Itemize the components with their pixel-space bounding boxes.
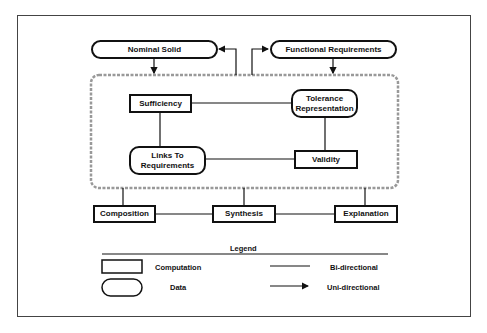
node-synthesis: Synthesis [212, 205, 276, 223]
legend-computation-label: Computation [155, 263, 201, 272]
node-tolerance-representation: Tolerance Representation [291, 89, 358, 118]
node-validity: Validity [294, 150, 358, 169]
legend-computation-swatch [102, 260, 142, 273]
node-functional-requirements: Functional Requirements [270, 40, 397, 59]
node-nominal-solid: Nominal Solid [91, 40, 218, 59]
node-label: Validity [312, 155, 340, 165]
node-label: Explanation [343, 209, 388, 219]
node-composition: Composition [93, 205, 156, 223]
node-sufficiency: Sufficiency [129, 94, 192, 113]
node-explanation: Explanation [334, 205, 398, 223]
legend-bidirectional-label: Bi-directional [330, 263, 378, 272]
node-label: Functional Requirements [285, 45, 381, 55]
node-label: Sufficiency [139, 99, 182, 109]
node-label: Synthesis [225, 209, 263, 219]
node-links-to-requirements: Links To Requirements [129, 146, 206, 175]
node-label: Links To Requirements [137, 151, 198, 171]
legend-data-swatch [102, 279, 142, 296]
connector-layer [0, 0, 487, 333]
node-label: Nominal Solid [128, 45, 181, 55]
node-label: Tolerance Representation [295, 94, 353, 114]
legend-data-label: Data [170, 283, 186, 292]
legend-title: Legend [230, 244, 257, 253]
node-label: Composition [100, 209, 149, 219]
legend-unidirectional-label: Uni-directional [327, 283, 380, 292]
